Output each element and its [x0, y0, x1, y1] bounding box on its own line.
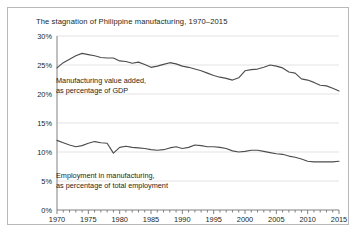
x-tick-label: 1990: [167, 215, 197, 224]
series-line-1: [57, 140, 339, 161]
y-tick-label: 0%: [26, 206, 52, 215]
plot-area: 0%5%10%15%20%25%30% 19701975198019851990…: [8, 8, 350, 226]
y-tick-label: 30%: [26, 32, 52, 41]
annotation-line-2: as percentage of total employment: [56, 181, 168, 191]
axis-ticks: [57, 210, 339, 214]
y-tick-label: 25%: [26, 61, 52, 70]
annotation-line-2: as percentage of GDP: [56, 86, 146, 96]
y-tick-label: 15%: [26, 119, 52, 128]
series-lines: [57, 53, 339, 161]
chart-figure: The stagnation of Philippine manufacturi…: [7, 7, 349, 225]
y-tick-label: 5%: [26, 177, 52, 186]
annotation-manufacturing-value-added: Manufacturing value added, as percentage…: [56, 76, 146, 95]
x-tick-label: 1985: [136, 215, 166, 224]
annotation-line-1: Employment in manufacturing,: [56, 171, 168, 181]
x-tick-label: 1995: [199, 215, 229, 224]
x-tick-label: 2015: [324, 215, 354, 224]
x-tick-label: 1980: [105, 215, 135, 224]
gridlines: [57, 36, 339, 181]
annotation-line-1: Manufacturing value added,: [56, 76, 146, 86]
annotation-employment-in-manufacturing: Employment in manufacturing, as percenta…: [56, 171, 168, 190]
x-tick-label: 1970: [42, 215, 72, 224]
chart-svg: [8, 8, 350, 226]
x-tick-label: 2005: [261, 215, 291, 224]
y-tick-label: 10%: [26, 148, 52, 157]
x-tick-label: 2010: [293, 215, 323, 224]
x-tick-label: 1975: [73, 215, 103, 224]
x-tick-label: 2000: [230, 215, 260, 224]
y-tick-label: 20%: [26, 90, 52, 99]
